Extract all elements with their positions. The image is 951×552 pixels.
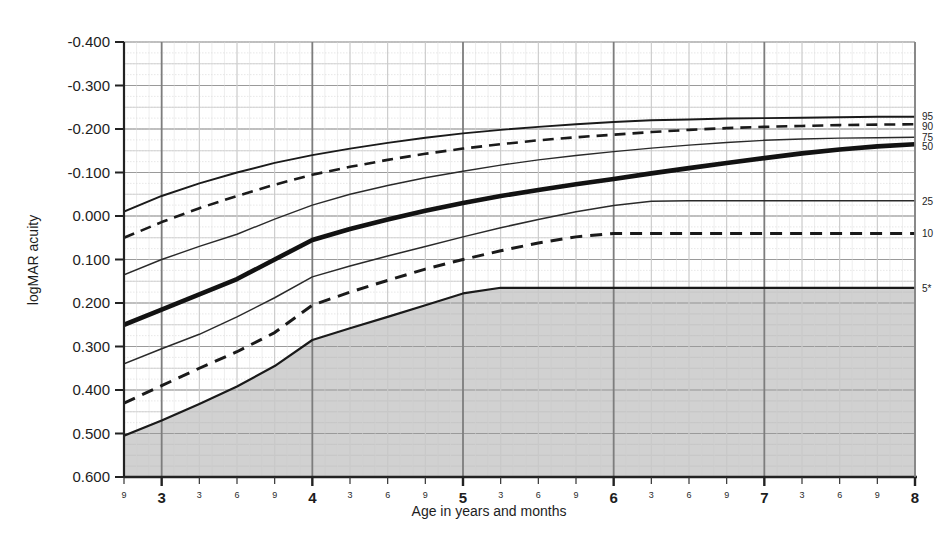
x-tick-label-month: 3 bbox=[649, 490, 654, 500]
growth-chart-figure: -0.400-0.300-0.200-0.1000.0000.1000.2000… bbox=[0, 0, 951, 552]
x-tick-label-year: 4 bbox=[308, 489, 317, 506]
percentile-label-5star: 5* bbox=[922, 283, 932, 294]
y-tick-label: -0.200 bbox=[67, 120, 110, 137]
x-tick-label-month: 6 bbox=[536, 490, 541, 500]
x-tick-label-year: 7 bbox=[760, 489, 768, 506]
y-tick-label: 0.000 bbox=[72, 207, 110, 224]
x-tick-label-month: 3 bbox=[347, 490, 352, 500]
y-tick-label: 0.500 bbox=[72, 425, 110, 442]
x-tick-label-year: 3 bbox=[157, 489, 165, 506]
y-tick-label: 0.300 bbox=[72, 338, 110, 355]
x-tick-label-month: 9 bbox=[272, 490, 277, 500]
x-tick-label-year: 6 bbox=[609, 489, 617, 506]
x-tick-label-month: 3 bbox=[197, 490, 202, 500]
x-tick-label-month: 6 bbox=[837, 490, 842, 500]
y-tick-label: -0.100 bbox=[67, 164, 110, 181]
x-axis-title: Age in years and months bbox=[412, 503, 567, 519]
percentile-label-50: 50 bbox=[922, 141, 934, 152]
x-tick-label-month: 9 bbox=[121, 490, 126, 500]
x-tick-label-month: 3 bbox=[799, 490, 804, 500]
y-tick-label: 0.100 bbox=[72, 251, 110, 268]
x-tick-label-month: 6 bbox=[234, 490, 239, 500]
y-tick-label: 0.600 bbox=[72, 468, 110, 485]
y-tick-label: -0.400 bbox=[67, 33, 110, 50]
percentile-label-95: 95 bbox=[922, 111, 934, 122]
y-tick-label: -0.300 bbox=[67, 77, 110, 94]
x-tick-label-month: 6 bbox=[686, 490, 691, 500]
x-tick-label-month: 9 bbox=[573, 490, 578, 500]
x-tick-label-year: 8 bbox=[911, 489, 919, 506]
percentile-label-25: 25 bbox=[922, 196, 934, 207]
x-tick-label-month: 3 bbox=[498, 490, 503, 500]
x-tick-label-month: 9 bbox=[875, 490, 880, 500]
chart-canvas: -0.400-0.300-0.200-0.1000.0000.1000.2000… bbox=[0, 0, 951, 552]
x-tick-label-month: 9 bbox=[423, 490, 428, 500]
percentile-label-10: 10 bbox=[922, 228, 934, 239]
y-tick-label: 0.200 bbox=[72, 294, 110, 311]
y-tick-label: 0.400 bbox=[72, 381, 110, 398]
x-tick-label-month: 6 bbox=[385, 490, 390, 500]
percentile-label-90: 90 bbox=[922, 121, 934, 132]
x-tick-label-month: 9 bbox=[724, 490, 729, 500]
y-axis-title: logMAR acuity bbox=[25, 215, 41, 305]
